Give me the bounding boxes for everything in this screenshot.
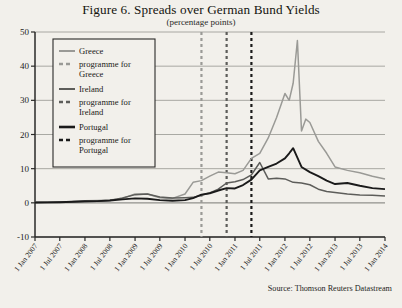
x-axis bbox=[35, 237, 385, 241]
legend-label: Portugal bbox=[79, 145, 109, 155]
legend-label: Ireland bbox=[79, 84, 104, 94]
x-axis-tick-label: 1 Jul 2009 bbox=[138, 242, 165, 273]
x-axis-tick-label: 1 Jul 2011 bbox=[238, 242, 265, 272]
x-axis-labels: 1 Jan 20071 Jul 20071 Jan 20081 Jul 2008… bbox=[12, 242, 389, 274]
x-axis-tick-label: 1 Jul 2013 bbox=[338, 242, 365, 273]
y-axis-labels: -1001020304050 bbox=[17, 27, 30, 242]
x-axis-tick-label: 1 Jan 2014 bbox=[362, 242, 389, 274]
y-axis bbox=[31, 32, 35, 237]
x-axis-tick-label: 1 Jan 2011 bbox=[212, 242, 239, 273]
x-axis-tick-label: 1 Jan 2012 bbox=[262, 242, 289, 274]
x-axis-tick-label: 1 Jul 2007 bbox=[38, 242, 65, 273]
legend: Greeceprogramme forGreeceIrelandprogramm… bbox=[53, 39, 155, 167]
y-axis-tick-label: 30 bbox=[20, 95, 30, 105]
y-axis-tick-label: 20 bbox=[20, 130, 30, 140]
y-axis-tick-label: 10 bbox=[20, 164, 30, 174]
x-axis-tick-label: 1 Jan 2013 bbox=[312, 242, 339, 274]
x-axis-tick-label: 1 Jan 2009 bbox=[112, 242, 139, 274]
y-axis-tick-label: 40 bbox=[20, 61, 30, 71]
legend-label: Greece bbox=[79, 46, 104, 56]
y-axis-tick-label: 0 bbox=[25, 198, 30, 208]
y-axis-tick-label: -10 bbox=[17, 232, 29, 242]
x-axis-tick-label: 1 Jan 2010 bbox=[162, 242, 189, 274]
x-axis-tick-label: 1 Jan 2008 bbox=[62, 242, 89, 274]
y-axis-tick-label: 50 bbox=[20, 27, 30, 37]
legend-label: Greece bbox=[79, 69, 104, 79]
legend-label: programme for bbox=[79, 135, 131, 145]
legend-label: programme for bbox=[79, 97, 131, 107]
legend-label: programme for bbox=[79, 59, 131, 69]
x-axis-tick-label: 1 Jul 2008 bbox=[88, 242, 115, 273]
x-axis-tick-label: 1 Jul 2010 bbox=[188, 242, 215, 273]
x-axis-tick-label: 1 Jul 2012 bbox=[288, 242, 315, 273]
legend-label: Ireland bbox=[79, 107, 104, 117]
x-axis-tick-label: 1 Jan 2007 bbox=[12, 242, 39, 274]
legend-label: Portugal bbox=[79, 122, 109, 132]
figure-container: Figure 6. Spreads over German Bund Yield… bbox=[0, 0, 402, 308]
chart-svg: 1 Jan 20071 Jul 20071 Jan 20081 Jul 2008… bbox=[0, 0, 402, 308]
